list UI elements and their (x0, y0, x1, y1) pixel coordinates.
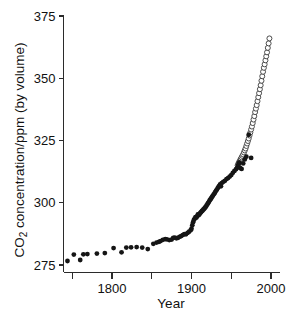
data-point-filled (85, 252, 90, 257)
data-point-filled (71, 252, 76, 257)
data-point-filled (111, 246, 116, 251)
data-point-filled (140, 245, 145, 250)
ice-core-filled-series (65, 132, 253, 263)
data-point-filled (249, 156, 254, 161)
data-point-filled (94, 251, 99, 256)
data-point-filled (102, 251, 107, 256)
data-point-filled (145, 247, 150, 252)
data-point-filled (65, 259, 70, 264)
y-tick-label: 350 (34, 71, 56, 86)
y-tick-label: 300 (34, 195, 56, 210)
y-tick-label: 325 (34, 133, 56, 148)
x-tick-label: 1800 (98, 281, 127, 296)
x-tick-label: 1900 (177, 281, 206, 296)
data-point-filled (134, 245, 139, 250)
mauna-loa-open-series (235, 36, 272, 168)
y-tick-label: 275 (34, 258, 56, 273)
co2-concentration-chart: 275300325350375 180019002000 Year CO2 co… (0, 0, 291, 320)
y-axis-ticks (59, 16, 64, 265)
data-point-filled (246, 132, 251, 137)
chart-canvas: 275300325350375 180019002000 Year CO2 co… (0, 0, 291, 320)
data-point-filled (78, 258, 83, 263)
data-point-filled (129, 245, 134, 250)
data-point-filled (244, 154, 249, 159)
data-point-filled (124, 245, 129, 250)
y-tick-label: 375 (34, 9, 56, 24)
x-axis-tick-labels: 180019002000 (98, 281, 286, 296)
data-point-open (267, 36, 272, 41)
x-axis-ticks (72, 273, 271, 279)
plot-area: 275300325350375 180019002000 (34, 9, 286, 296)
x-axis-title: Year (157, 296, 185, 311)
y-axis-tick-labels: 275300325350375 (34, 9, 56, 273)
data-point-filled (239, 166, 244, 171)
y-axis-title: CO2 concentration/ppm (by volume) (12, 43, 29, 258)
x-tick-label: 2000 (257, 281, 286, 296)
data-point-open (266, 41, 271, 46)
data-point-filled (119, 250, 124, 255)
